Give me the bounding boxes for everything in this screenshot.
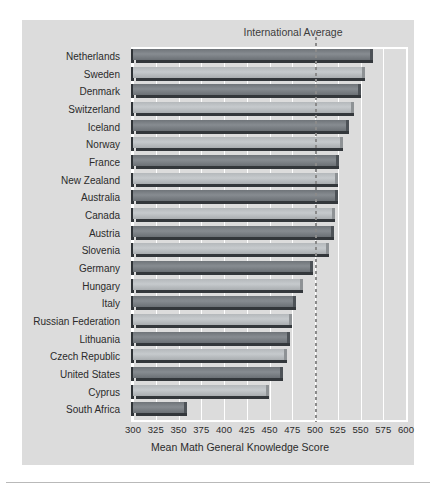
bar-shadow [136, 360, 287, 363]
category-label-czech-republic: Czech Republic [50, 350, 120, 363]
bar [133, 84, 358, 95]
category-label-norway: Norway [86, 138, 120, 151]
bar-end-cap [332, 208, 335, 219]
category-label-russian-federation: Russian Federation [33, 315, 120, 328]
category-label-netherlands: Netherlands [66, 50, 120, 63]
bar-shadow [136, 325, 292, 328]
bar-end-cap [335, 173, 338, 184]
bar-shadow [136, 254, 329, 257]
bar-row [133, 84, 406, 102]
bar-end-cap [358, 84, 361, 95]
bar-end-cap [287, 332, 290, 343]
x-tick-label: 325 [148, 424, 164, 435]
x-tick-label: 475 [284, 424, 300, 435]
category-label-cyprus: Cyprus [88, 386, 120, 399]
bar-row [133, 279, 406, 297]
bar-face [133, 367, 280, 378]
bar-face [133, 314, 289, 325]
bar-row [133, 173, 406, 191]
bar-shadow [136, 166, 339, 169]
bar-face [133, 243, 326, 254]
bar [133, 49, 370, 60]
bar-row [133, 208, 406, 226]
category-label-lithuania: Lithuania [79, 333, 120, 346]
bar-end-cap [280, 367, 283, 378]
x-tick-label: 350 [171, 424, 187, 435]
x-tick-label: 450 [262, 424, 278, 435]
bar-shadow [136, 272, 313, 275]
bar [133, 173, 335, 184]
bar-end-cap [300, 279, 303, 290]
category-label-denmark: Denmark [79, 85, 120, 98]
bar-shadow [136, 378, 283, 381]
bar-face [133, 296, 293, 307]
x-tick-label: 525 [330, 424, 346, 435]
bar-shadow [136, 307, 296, 310]
bar-face [133, 279, 300, 290]
gridline [406, 49, 407, 420]
bar-row [133, 402, 406, 420]
bar-shadow [136, 201, 338, 204]
x-tick-label: 575 [375, 424, 391, 435]
category-label-sweden: Sweden [84, 68, 120, 81]
bar [133, 402, 184, 413]
category-label-austria: Austria [89, 227, 120, 240]
bar-end-cap [370, 49, 373, 60]
bar [133, 67, 362, 78]
bar-end-cap [310, 261, 313, 272]
bar-end-cap [293, 296, 296, 307]
bar-end-cap [351, 102, 354, 113]
bar-end-cap [336, 155, 339, 166]
bar [133, 261, 310, 272]
bar-face [133, 402, 184, 413]
bar-row [133, 385, 406, 403]
bar-shadow [136, 290, 303, 293]
bar-row [133, 296, 406, 314]
bar-end-cap [326, 243, 329, 254]
bar-shadow [136, 343, 290, 346]
bar-face [133, 385, 266, 396]
category-label-slovenia: Slovenia [82, 244, 120, 257]
bar-face [133, 332, 287, 343]
x-tick-label: 550 [353, 424, 369, 435]
bar-row [133, 261, 406, 279]
bar-end-cap [331, 226, 334, 237]
bar-face [133, 261, 310, 272]
bar [133, 226, 331, 237]
category-label-iceland: Iceland [88, 121, 120, 134]
category-label-united-states: United States [60, 368, 120, 381]
bar-shadow [136, 396, 269, 399]
bottom-divider [6, 482, 430, 483]
bar-end-cap [346, 120, 349, 131]
international-average-label: International Average [243, 26, 342, 38]
bar-row [133, 243, 406, 261]
bar-face [133, 84, 358, 95]
bar-shadow [136, 95, 361, 98]
x-tick-label: 400 [216, 424, 232, 435]
bar-shadow [136, 148, 343, 151]
bar-shadow [136, 60, 373, 63]
category-label-new-zealand: New Zealand [61, 174, 120, 187]
bar-end-cap [184, 402, 187, 413]
category-axis-labels: NetherlandsSwedenDenmarkSwitzerlandIcela… [22, 49, 127, 420]
x-tick-label: 500 [307, 424, 323, 435]
bar-shadow [136, 78, 365, 81]
bar-shadow [136, 219, 335, 222]
category-label-switzerland: Switzerland [68, 103, 120, 116]
x-tick-label: 425 [239, 424, 255, 435]
bar-face [133, 137, 340, 148]
bar-shadow [136, 413, 187, 416]
bar [133, 190, 335, 201]
bar-face [133, 67, 362, 78]
category-label-germany: Germany [79, 262, 120, 275]
bar-end-cap [335, 190, 338, 201]
bar-row [133, 137, 406, 155]
bar-row [133, 314, 406, 332]
bar-row [133, 67, 406, 85]
bar-row [133, 190, 406, 208]
figure-top-margin [0, 0, 436, 20]
bar [133, 296, 293, 307]
value-axis-ticks: 300325350375400425450475500525550575600 [133, 424, 406, 440]
bar-end-cap [266, 385, 269, 396]
bar [133, 208, 332, 219]
